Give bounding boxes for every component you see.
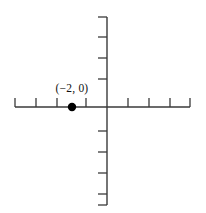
graph-canvas: (−2, 0) — [0, 0, 206, 213]
plotted-point — [68, 103, 76, 111]
coordinate-plane-figure: (−2, 0) — [0, 0, 206, 213]
point-coordinate-label: (−2, 0) — [56, 82, 89, 95]
